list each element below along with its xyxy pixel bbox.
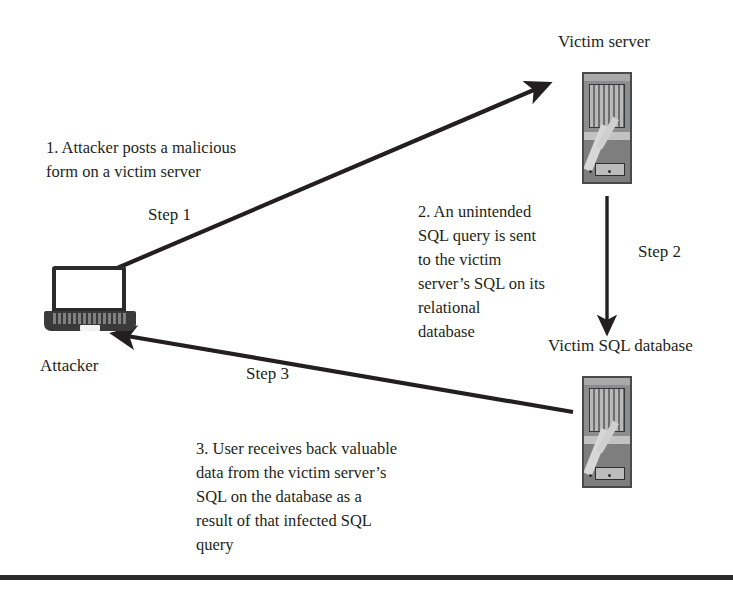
step1-arrow-label: Step 1 [148,205,191,225]
laptop-lid [52,266,126,312]
database-top-bar [584,378,630,385]
database-led-2 [608,474,611,477]
laptop-base [44,311,136,331]
attacker-label: Attacker [40,356,99,376]
diagram-canvas: Attacker Victim server Victim SQL databa… [0,0,733,592]
step3-description: 3. User receives back valuable data from… [196,437,496,557]
server-tower-icon [582,72,632,184]
database-led [589,474,592,477]
laptop-keyboard [53,313,127,324]
bottom-divider [0,575,733,580]
server-led [589,170,592,173]
server-drive-bays [589,84,625,128]
step3-arrow-label: Step 3 [246,364,289,384]
arrow-step3 [127,336,573,412]
laptop-screen [56,270,122,308]
victim-server-label: Victim server [558,32,650,52]
server-top-bar [584,74,630,81]
laptop-icon [44,266,136,334]
database-tower-icon [582,376,632,488]
step2-arrow-label: Step 2 [638,242,681,262]
database-drive-bays [589,388,625,432]
server-led-2 [608,170,611,173]
laptop-trackpad [80,325,100,331]
step2-description: 2. An unintended SQL query is sent to th… [418,200,586,344]
step1-description: 1. Attacker posts a malicious form on a … [46,136,346,184]
